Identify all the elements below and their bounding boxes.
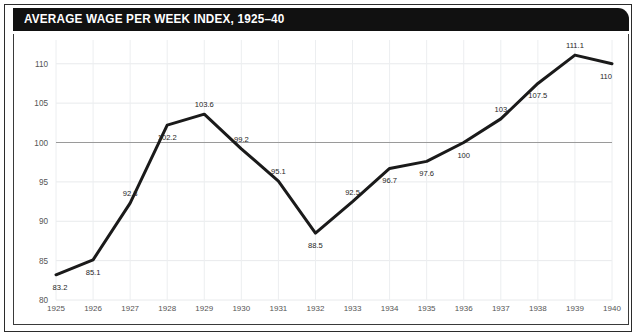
series-line [56, 55, 612, 275]
data-point-labels: 83.285.192.3102.2103.699.295.188.592.596… [53, 41, 612, 292]
x-axis-tick-label: 1935 [418, 304, 436, 313]
x-axis-tick-label: 1933 [344, 304, 362, 313]
data-point-label: 88.5 [308, 241, 323, 250]
y-axis-tick-label: 100 [34, 139, 48, 148]
gridlines [56, 40, 612, 300]
x-axis-tick-label: 1938 [529, 304, 547, 313]
wage-index-series [56, 55, 612, 275]
plot-area: 80859095100105110 1925192619271928192919… [0, 0, 636, 336]
x-axis-tick-label: 1934 [381, 304, 399, 313]
y-axis-tick-label: 95 [39, 178, 49, 187]
y-axis-tick-label: 85 [39, 257, 49, 266]
x-axis-tick-labels: 1925192619271928192919301931193219331934… [47, 304, 621, 313]
x-axis-tick-label: 1937 [492, 304, 510, 313]
y-axis-tick-label: 105 [34, 99, 48, 108]
data-point-label: 85.1 [86, 268, 101, 277]
x-axis-tick-label: 1930 [232, 304, 250, 313]
x-axis-tick-label: 1928 [158, 304, 176, 313]
data-point-label: 99.2 [234, 135, 249, 144]
chart-figure: AVERAGE WAGE PER WEEK INDEX, 1925–40 808… [0, 0, 636, 336]
data-point-label: 100 [457, 151, 470, 160]
data-point-label: 103 [494, 105, 507, 114]
x-axis-tick-label: 1936 [455, 304, 473, 313]
line-chart-svg: 80859095100105110 1925192619271928192919… [0, 0, 636, 336]
y-axis-tick-labels: 80859095100105110 [34, 60, 48, 305]
x-axis-tick-label: 1939 [566, 304, 584, 313]
data-point-label: 96.7 [382, 176, 397, 185]
x-axis-tick-label: 1940 [603, 304, 621, 313]
data-point-label: 92.3 [123, 189, 138, 198]
x-axis-tick-label: 1931 [270, 304, 288, 313]
data-point-label: 83.2 [53, 283, 68, 292]
data-point-label: 95.1 [271, 167, 286, 176]
data-point-label: 111.1 [566, 41, 584, 50]
data-point-label: 97.6 [419, 169, 434, 178]
data-point-label: 103.6 [195, 100, 214, 109]
x-axis-tick-label: 1927 [121, 304, 139, 313]
y-axis-tick-label: 110 [35, 60, 48, 69]
x-axis-tick-label: 1926 [84, 304, 102, 313]
y-axis-tick-label: 90 [39, 217, 49, 226]
data-point-label: 92.5 [345, 188, 360, 197]
x-axis-tick-label: 1925 [47, 304, 65, 313]
data-point-label: 102.2 [158, 133, 177, 142]
data-point-label: 110 [600, 72, 612, 81]
x-axis-tick-label: 1932 [307, 304, 325, 313]
data-point-label: 107.5 [528, 91, 547, 100]
x-axis-tick-label: 1929 [195, 304, 213, 313]
